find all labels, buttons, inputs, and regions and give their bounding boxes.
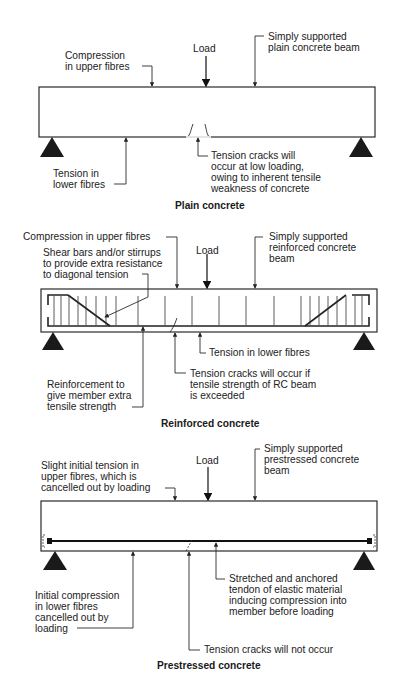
cracks-label: Tension cracks will occur if	[190, 368, 310, 379]
plain-beam	[39, 87, 375, 137]
svg-text:beam: beam	[269, 253, 294, 264]
panel-title: Plain concrete	[175, 200, 245, 211]
svg-text:in lower fibres: in lower fibres	[35, 601, 98, 612]
reinforcement-leader	[132, 327, 143, 407]
compression-label: Compression in upper fibres	[23, 231, 150, 242]
panel-reinforced-concrete: Load Compression in upper fibres Shear b…	[23, 231, 377, 429]
slight-tension-label: Slight initial tension in	[41, 460, 139, 471]
beam-leader	[255, 237, 263, 288]
tension-label: Tension in	[53, 168, 99, 179]
svg-text:owing to inherent tensile: owing to inherent tensile	[211, 172, 321, 183]
svg-text:prestressed concrete: prestressed concrete	[264, 454, 359, 465]
cracks-leader	[198, 138, 208, 156]
concrete-beams-diagram: Load Compression in upper fibres Simply …	[0, 0, 396, 676]
support-right-icon	[349, 137, 373, 157]
panel-plain-concrete: Load Compression in upper fibres Simply …	[39, 31, 375, 211]
tension-leader	[200, 333, 206, 353]
reinforcement-label: Reinforcement to	[47, 379, 125, 390]
slight-tension-leader	[165, 488, 175, 500]
svg-text:beam: beam	[264, 465, 289, 476]
beam-type-label: Simply supported	[269, 231, 348, 242]
svg-text:plain concrete beam: plain concrete beam	[268, 42, 360, 53]
load-label: Load	[196, 455, 219, 466]
svg-text:occur at low loading,: occur at low loading,	[211, 161, 304, 172]
anchor-left-icon	[47, 538, 52, 544]
svg-text:in upper fibres: in upper fibres	[65, 61, 130, 72]
svg-text:inducing compression into: inducing compression into	[229, 595, 347, 606]
svg-text:tendon of elastic material: tendon of elastic material	[229, 584, 342, 595]
svg-text:give member extra: give member extra	[47, 390, 132, 401]
svg-text:loading: loading	[35, 623, 68, 634]
panel-prestressed-concrete: Load Slight initial tension in upper fib…	[35, 443, 377, 671]
tendon-label: Stretched and anchored	[229, 573, 338, 584]
initial-compression-label: Initial compression	[35, 590, 119, 601]
svg-text:cancelled out by: cancelled out by	[35, 612, 110, 623]
panel-title: Prestressed concrete	[157, 660, 261, 671]
svg-text:weakness of concrete: weakness of concrete	[210, 183, 310, 194]
svg-text:to provide extra resistance: to provide extra resistance	[43, 258, 163, 269]
tension-label: Tension in lower fibres	[209, 347, 310, 358]
no-cracks-label: Tension cracks will not occur	[204, 644, 334, 655]
svg-text:reinforced concrete: reinforced concrete	[269, 242, 357, 253]
beam-leader	[255, 36, 264, 86]
shear-bars-label: Shear bars and/or stirrups	[43, 247, 161, 258]
compression-leader	[166, 237, 177, 288]
support-left-icon	[42, 332, 64, 350]
beam-leader	[255, 449, 260, 500]
panel-title: Reinforced concrete	[161, 418, 260, 429]
ps-beam	[41, 501, 377, 551]
no-cracks-leader	[189, 552, 200, 650]
svg-text:lower fibres: lower fibres	[53, 179, 105, 190]
load-label: Load	[196, 245, 219, 256]
load-label: Load	[193, 43, 216, 54]
svg-text:tensile strength: tensile strength	[47, 401, 116, 412]
cracks-leader	[175, 333, 186, 373]
anchor-right-icon	[367, 538, 372, 544]
support-left-icon	[40, 137, 64, 157]
svg-text:is exceeded: is exceeded	[190, 390, 245, 401]
support-left-icon	[43, 551, 67, 570]
beam-type-label: Simply supported	[268, 31, 347, 42]
svg-text:member before loading: member before loading	[229, 606, 334, 617]
tension-leader	[114, 138, 126, 184]
beam-type-label: Simply supported	[264, 443, 343, 454]
svg-text:cancelled out by loading: cancelled out by loading	[41, 482, 151, 493]
svg-text:to diagonal tension: to diagonal tension	[43, 269, 129, 280]
compression-leader	[142, 66, 152, 86]
support-right-icon	[353, 332, 375, 350]
svg-text:tensile strength of RC beam: tensile strength of RC beam	[190, 379, 316, 390]
compression-label: Compression	[65, 50, 125, 61]
cracks-label: Tension cracks will	[211, 150, 295, 161]
svg-text:upper fibres, which is: upper fibres, which is	[41, 471, 137, 482]
support-right-icon	[353, 551, 375, 570]
